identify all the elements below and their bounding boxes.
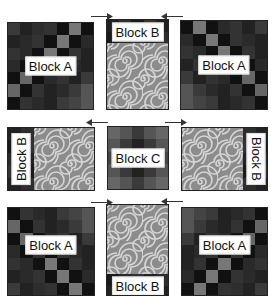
- block-label: Block A: [198, 56, 249, 75]
- block-label: Block B: [111, 277, 163, 296]
- arrow-right-icon: [91, 16, 111, 17]
- arrow-right-icon: [165, 122, 185, 123]
- block-label: Block B: [247, 133, 266, 185]
- swirl-pattern: [107, 205, 169, 274]
- block-b-middle-left: Block B: [7, 127, 95, 191]
- block-a-bottom-left: Block A: [7, 207, 95, 296]
- swirl-pattern: [34, 128, 95, 191]
- arrow-left-icon: [88, 122, 108, 123]
- arrow-left-icon: [163, 201, 183, 202]
- block-a-top-right: Block A: [180, 20, 268, 110]
- block-label: Block A: [25, 235, 76, 254]
- block-b-middle-right: Block B: [181, 127, 268, 191]
- block-b-bottom-center: Block B: [106, 204, 169, 296]
- block-label: Block A: [25, 57, 76, 76]
- swirl-pattern: [182, 128, 243, 191]
- arrow-right-icon: [91, 202, 111, 203]
- block-label: Block A: [199, 235, 250, 254]
- block-a-top-left: Block A: [7, 22, 94, 110]
- block-b-top-center: Block B: [106, 19, 169, 110]
- block-label: Block B: [111, 23, 163, 42]
- block-label: Block B: [12, 133, 31, 185]
- block-c-middle-center: Block C: [107, 126, 169, 190]
- swirl-pattern: [107, 43, 169, 110]
- block-label: Block C: [112, 149, 165, 168]
- arrow-left-icon: [163, 16, 183, 17]
- block-a-bottom-right: Block A: [181, 207, 268, 296]
